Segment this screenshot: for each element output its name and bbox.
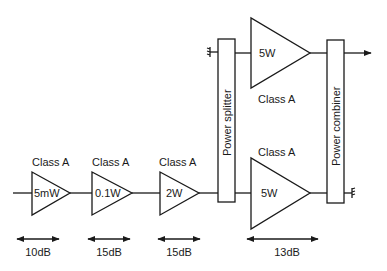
- gain-indicator-1: 10dB: [17, 239, 59, 258]
- ground-termination-icon: [352, 188, 355, 198]
- gain-indicator-3: 15dB: [158, 239, 200, 258]
- amplifier-stage-4-upper: 5W Class A: [251, 18, 310, 105]
- gain-indicator-4: 13dB: [247, 239, 318, 258]
- stage-2-power: 0.1W: [95, 187, 121, 199]
- amplifier-diagram: 5mW Class A 0.1W Class A 2W Class A Powe…: [0, 0, 387, 271]
- amplifier-stage-2: 0.1W Class A: [92, 156, 132, 215]
- stage-3-class: Class A: [159, 156, 197, 168]
- stage-3-gain: 15dB: [166, 246, 192, 258]
- combiner-label: Power combiner: [330, 86, 342, 166]
- amplifier-triangle-icon: [251, 158, 310, 229]
- stage-2-class: Class A: [92, 156, 130, 168]
- power-combiner: Power combiner: [327, 40, 344, 203]
- stage-4-lower-class: Class A: [258, 146, 296, 158]
- amplifier-stage-4-lower: 5W Class A: [251, 146, 310, 229]
- stage-4-upper-class: Class A: [258, 93, 296, 105]
- stage-1-power: 5mW: [34, 187, 60, 199]
- amplifier-stage-1: 5mW Class A: [32, 156, 70, 215]
- stage-4-gain: 13dB: [274, 246, 300, 258]
- stage-1-class: Class A: [32, 156, 70, 168]
- splitter-label: Power splitter: [221, 89, 233, 156]
- ground-termination-icon: [207, 47, 210, 57]
- stage-1-gain: 10dB: [25, 246, 51, 258]
- power-splitter: Power splitter: [218, 39, 235, 202]
- stage-2-gain: 15dB: [96, 246, 122, 258]
- amplifier-stage-3: 2W Class A: [159, 156, 199, 215]
- gain-indicator-2: 15dB: [88, 239, 130, 258]
- stage-4-lower-power: 5W: [261, 187, 278, 199]
- stage-4-upper-power: 5W: [259, 47, 276, 59]
- stage-3-power: 2W: [166, 187, 183, 199]
